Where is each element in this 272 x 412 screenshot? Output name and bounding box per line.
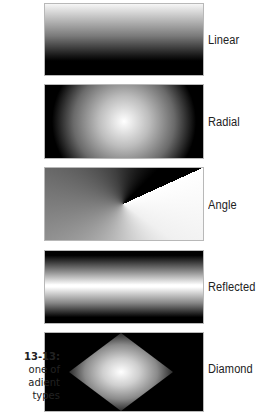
linear-gradient-label: Linear (208, 33, 239, 47)
diamond-gradient-label: Diamond (208, 362, 253, 376)
figure-caption: 13-13: one of adient types (24, 350, 60, 402)
caption-line: one of (24, 363, 60, 376)
radial-gradient-swatch (44, 84, 204, 159)
reflected-gradient-swatch (44, 250, 204, 324)
caption-line: types (24, 389, 60, 402)
linear-gradient-swatch (44, 3, 204, 76)
caption-line: adient (24, 376, 60, 389)
reflected-gradient-label: Reflected (208, 280, 255, 294)
angle-gradient-label: Angle (208, 198, 237, 212)
figure-number: 13-13: (24, 350, 60, 363)
diamond-gradient-swatch (44, 332, 204, 412)
radial-gradient-label: Radial (208, 115, 240, 129)
diamond-shape (69, 333, 173, 411)
angle-gradient-swatch (44, 167, 204, 241)
